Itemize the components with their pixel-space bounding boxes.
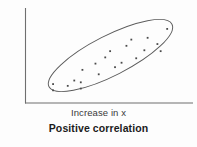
correlation-envelope-group: [40, 6, 181, 104]
data-point: [52, 89, 54, 91]
data-points-group: [52, 28, 168, 91]
data-point: [135, 57, 137, 59]
data-point: [52, 83, 54, 85]
correlation-envelope-ellipse: [40, 6, 181, 104]
figure-caption: Positive correlation: [0, 122, 197, 134]
data-point: [67, 85, 69, 87]
data-point: [114, 66, 116, 68]
data-point: [143, 49, 145, 51]
data-point: [130, 39, 132, 41]
data-point: [121, 62, 123, 64]
x-axis-label: Increase in x: [0, 107, 197, 118]
data-point: [80, 88, 82, 90]
data-point: [104, 56, 106, 58]
data-point: [95, 63, 97, 65]
data-point: [126, 45, 128, 47]
scatter-plot-figure: Increase in y Increase in x Positive cor…: [0, 0, 197, 147]
data-point: [109, 50, 111, 52]
axes-group: [25, 8, 193, 104]
data-point: [157, 43, 159, 45]
data-point: [80, 81, 82, 83]
data-point: [73, 80, 75, 82]
data-point: [160, 50, 162, 52]
data-point: [98, 73, 100, 75]
data-point: [82, 69, 84, 71]
data-point: [147, 37, 149, 39]
data-point: [166, 28, 168, 30]
